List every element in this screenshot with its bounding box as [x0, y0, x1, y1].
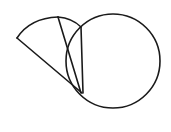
circle-shape: [66, 14, 160, 108]
drawing-canvas: [0, 0, 171, 132]
sector-arc-outer: [17, 17, 58, 38]
sector-arc-upper-right: [58, 17, 81, 27]
sector-inner-edge-right: [81, 27, 83, 93]
geometric-figure: [0, 0, 171, 132]
